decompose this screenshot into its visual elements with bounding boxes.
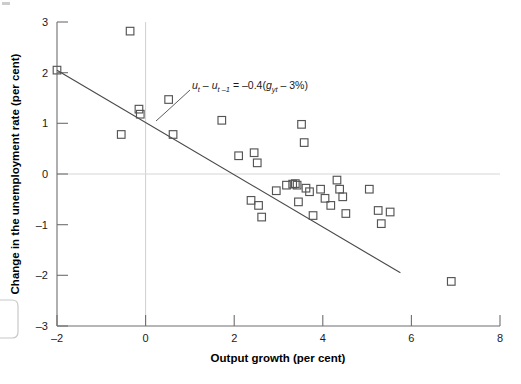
data-point [336, 185, 344, 193]
okun-law-scatter-figure: 3 2 1 0 –1 –2 –3 –2 0 2 4 6 8 Output gro… [0, 0, 521, 384]
okun-law-equation: ut – ut –1 = –0.4(gyt – 3%) [192, 79, 308, 94]
data-point [333, 176, 341, 184]
y-tick-label-neg1: –1 [36, 219, 48, 231]
data-point [235, 152, 243, 160]
data-point [126, 27, 134, 35]
data-point [377, 220, 385, 228]
data-point [247, 197, 255, 205]
data-point [327, 202, 335, 210]
data-point [165, 96, 173, 104]
data-point [366, 185, 374, 193]
data-point [447, 278, 455, 286]
data-point [253, 159, 261, 167]
data-point [309, 212, 317, 220]
y-axis-title: Change in the unemployment rate (per cen… [9, 53, 21, 294]
y-tick-label-1: 1 [42, 117, 48, 129]
data-point [298, 121, 306, 129]
x-tick-label-2: 2 [231, 332, 237, 344]
data-point-layer [53, 27, 455, 285]
data-point [295, 198, 303, 206]
data-point [317, 185, 325, 193]
x-axis: –2 0 2 4 6 8 [51, 315, 503, 344]
data-point [339, 193, 347, 201]
x-tick-label-neg2: –2 [51, 332, 63, 344]
data-point [258, 213, 266, 221]
data-point [250, 149, 258, 157]
y-tick-label-2: 2 [42, 67, 48, 79]
chart-canvas: 3 2 1 0 –1 –2 –3 –2 0 2 4 6 8 Output gro… [0, 0, 521, 384]
x-tick-label-4: 4 [320, 332, 326, 344]
y-tick-label-3: 3 [42, 16, 48, 28]
x-axis-title: Output growth (per cent) [211, 352, 346, 364]
x-tick-label-6: 6 [408, 332, 414, 344]
data-point [374, 207, 382, 215]
annotation-leader-line [156, 90, 190, 121]
data-point [386, 208, 394, 216]
data-point [117, 131, 125, 139]
x-tick-label-8: 8 [497, 332, 503, 344]
data-point [342, 210, 350, 218]
data-point [255, 202, 263, 210]
data-point [272, 187, 280, 195]
x-tick-label-0: 0 [143, 332, 149, 344]
data-point [218, 116, 226, 124]
y-tick-label-0: 0 [42, 168, 48, 180]
y-tick-label-neg3: –3 [36, 320, 48, 332]
y-axis: 3 2 1 0 –1 –2 –3 [36, 16, 68, 332]
data-point [300, 139, 308, 147]
okun-regression-line [57, 70, 400, 273]
y-tick-label-neg2: –2 [36, 269, 48, 281]
data-point [321, 195, 329, 203]
